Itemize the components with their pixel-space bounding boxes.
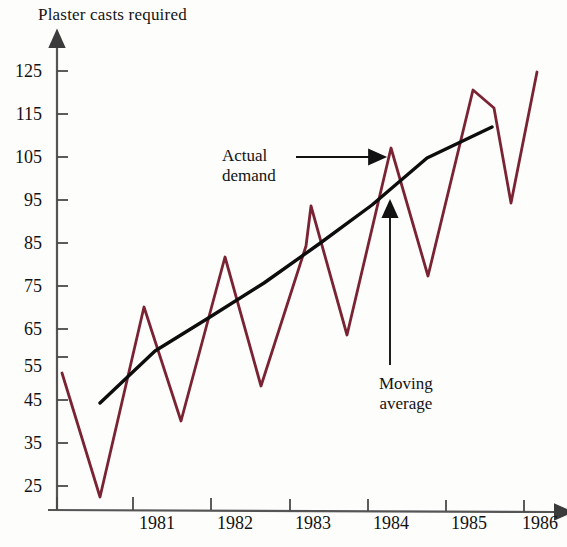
x-tick-label: 1986 — [522, 513, 558, 534]
y-tick-label: 85 — [0, 233, 42, 254]
x-tick-label: 1984 — [373, 513, 409, 534]
y-tick-label: 35 — [0, 433, 42, 454]
plot-area — [0, 0, 567, 547]
actual-demand-label-line2: demand — [222, 166, 276, 186]
y-tick-label: 25 — [0, 476, 42, 497]
y-tick-label: 115 — [0, 104, 42, 125]
y-tick-label: 55 — [0, 356, 42, 377]
x-tick-label: 1985 — [451, 513, 487, 534]
x-tick-label: 1983 — [295, 513, 331, 534]
y-tick-label: 65 — [0, 319, 42, 340]
moving-average-annotation: Moving average — [379, 374, 433, 414]
y-tick-label: 45 — [0, 390, 42, 411]
actual-demand-annotation: Actual demand — [222, 146, 276, 186]
y-tick-label: 95 — [0, 190, 42, 211]
x-tick-label: 1981 — [139, 513, 175, 534]
y-axis-ticks — [57, 71, 68, 486]
y-tick-label: 75 — [0, 276, 42, 297]
y-tick-label: 105 — [0, 147, 42, 168]
actual-demand-label-line1: Actual — [222, 146, 276, 166]
moving-average-label-line2: average — [379, 394, 433, 414]
moving-average-label-line1: Moving — [379, 374, 433, 394]
y-tick-label: 125 — [0, 61, 42, 82]
x-axis-line — [48, 510, 556, 512]
series-actual-demand — [62, 72, 537, 497]
chart-figure: Plaster casts required — [0, 0, 567, 547]
x-tick-label: 1982 — [217, 513, 253, 534]
series-moving-average — [100, 127, 492, 403]
